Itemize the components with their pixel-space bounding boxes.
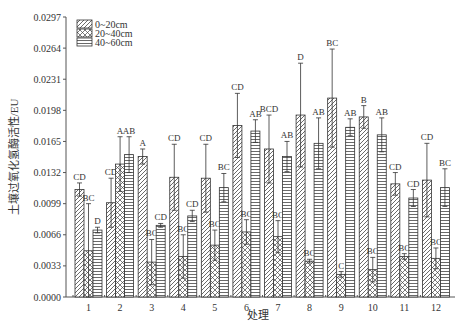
significance-letter: AB — [312, 107, 325, 117]
x-tick-label: 3 — [149, 302, 154, 313]
significance-letter: CD — [154, 212, 167, 222]
legend-swatch — [77, 29, 92, 37]
bar — [359, 117, 368, 297]
x-tick-label: 10 — [368, 302, 378, 313]
x-tick-label: 12 — [431, 302, 441, 313]
x-tick-label: 4 — [181, 302, 186, 313]
x-tick-label: 11 — [400, 302, 410, 313]
significance-letter: CD — [231, 82, 244, 92]
bar — [391, 184, 400, 297]
significance-letter: CD — [73, 172, 86, 182]
bar — [409, 198, 418, 297]
significance-letter: BCD — [260, 104, 279, 114]
bar — [251, 131, 260, 297]
y-tick-label: 0.0099 — [34, 198, 62, 209]
significance-letter: D — [94, 216, 101, 226]
x-tick-label: 5 — [212, 302, 217, 313]
x-axis-label: 处理 — [247, 309, 269, 321]
bar — [283, 157, 292, 297]
significance-letter: BC — [326, 38, 338, 48]
significance-letter: BC — [82, 193, 94, 203]
x-tick-label: 8 — [307, 302, 312, 313]
bar-chart: 0.00000.00330.00660.00990.01320.01650.01… — [0, 0, 469, 333]
legend-swatch — [77, 20, 92, 28]
legend: 0~20cm20~40cm40~60cm — [77, 19, 133, 48]
significance-letter: BC — [218, 162, 230, 172]
bar — [188, 216, 197, 297]
y-tick-label: 0.0165 — [34, 136, 62, 147]
significance-letter: CD — [168, 133, 181, 143]
x-tick-label: 2 — [118, 302, 123, 313]
bar — [156, 225, 165, 297]
bar — [138, 157, 147, 297]
significance-letter: A — [139, 138, 146, 148]
significance-letter: AB — [123, 126, 136, 136]
bar — [219, 188, 228, 297]
significance-letter: D — [297, 52, 304, 62]
y-tick-label: 0.0198 — [34, 105, 62, 116]
y-tick-label: 0.0132 — [34, 167, 62, 178]
bar — [75, 190, 84, 297]
bar — [93, 230, 102, 297]
legend-label: 40~60cm — [95, 37, 133, 48]
significance-letter: C — [338, 261, 344, 271]
y-tick-label: 0.0297 — [34, 12, 62, 23]
y-tick-label: 0.0033 — [34, 260, 62, 271]
y-tick-label: 0.0264 — [34, 43, 62, 54]
y-axis-label: 土壤过氧化氢酶活性/EU — [7, 99, 20, 216]
bars: CDBCDCDAABABCCDCDBCCDCDBCBCCDBCABBCDBCAB… — [73, 38, 451, 297]
significance-letter: CD — [200, 133, 213, 143]
bar — [400, 256, 409, 297]
x-tick-label: 9 — [339, 302, 344, 313]
significance-letter: CD — [407, 179, 420, 189]
y-tick-label: 0.0066 — [34, 229, 62, 240]
significance-letter: AB — [375, 107, 388, 117]
significance-letter: CD — [421, 132, 434, 142]
x-tick-label: 7 — [276, 302, 281, 313]
significance-letter: AB — [344, 108, 357, 118]
x-tick-label: 1 — [86, 302, 91, 313]
significance-letter: CD — [186, 199, 199, 209]
bar — [377, 135, 386, 297]
bar — [346, 127, 355, 297]
bar — [125, 155, 134, 297]
legend-swatch — [77, 38, 92, 46]
y-tick-label: 0.0231 — [34, 74, 62, 85]
significance-letter: AB — [281, 130, 294, 140]
y-tick-label: 0.0000 — [34, 292, 62, 303]
bar — [305, 261, 314, 297]
significance-letter: B — [361, 95, 367, 105]
significance-letter: CD — [389, 162, 402, 172]
bar — [337, 274, 346, 297]
significance-letter: BC — [439, 158, 451, 168]
